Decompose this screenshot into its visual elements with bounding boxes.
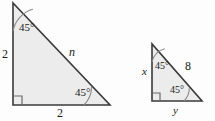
right-triangle-horizontal-leg-label: y [173,105,178,116]
left-triangle-bottom-right-angle-label: 45° [75,87,90,98]
right-triangle-bottom-right-angle-label: 45° [170,85,184,95]
left-triangle-vertical-leg-label: 2 [2,48,8,60]
right-triangle-hypotenuse-label: 8 [185,60,191,72]
right-triangle-top-angle-label: 45° [155,61,169,71]
left-triangle-hypotenuse-label: n [69,46,75,58]
left-triangle-horizontal-leg-label: 2 [57,107,63,119]
geometry-figure: 45° 2 n 45° 2 x 45° 8 45° y [0,0,215,121]
left-triangle-top-angle-label: 45° [19,22,34,33]
triangles-canvas [0,0,215,121]
left-triangle-shape [13,3,110,105]
right-triangle-vertical-leg-label: x [142,66,147,77]
